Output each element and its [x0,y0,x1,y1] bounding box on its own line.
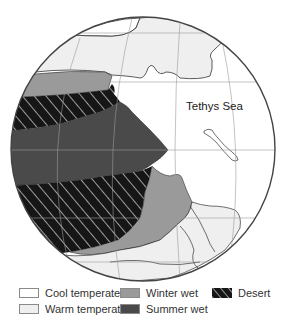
swatch-cool-temperate [19,288,39,298]
legend-label: Cool temperate [45,287,120,299]
swatch-desert-hatch-icon [212,288,232,298]
legend-item-warm-temperate: Warm temperate [19,303,127,315]
swatch-summer-wet [120,304,140,314]
legend-label: Winter wet [146,287,198,299]
legend-item-summer-wet: Summer wet [120,303,208,315]
paleoclimate-globe-map [0,0,283,283]
tethys-sea-label: Tethys Sea [186,100,243,112]
legend-item-cool-temperate: Cool temperate [19,287,120,299]
legend-label: Summer wet [146,303,208,315]
legend-item-desert: Desert [212,287,270,299]
legend-label: Desert [238,287,270,299]
swatch-warm-temperate [19,304,39,314]
legend: Cool temperate Warm temperate Winter wet… [0,283,283,323]
legend-label: Warm temperate [45,303,127,315]
swatch-winter-wet [120,288,140,298]
legend-item-winter-wet: Winter wet [120,287,198,299]
